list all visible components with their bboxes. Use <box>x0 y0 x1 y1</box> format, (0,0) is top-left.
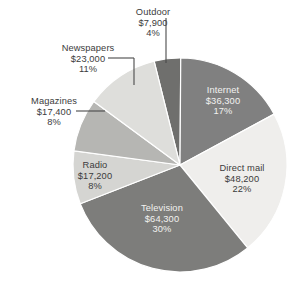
slice-label-outdoor-percent: 4% <box>107 28 199 39</box>
slice-label-internet-name: Internet <box>186 85 260 96</box>
slice-label-newspapers-value: $23,000 <box>40 54 136 65</box>
slice-label-outdoor-value: $7,900 <box>107 18 199 29</box>
slice-label-magazines: Magazines $17,400 8% <box>8 96 100 128</box>
slice-label-newspapers-percent: 11% <box>40 64 136 75</box>
slice-label-direct-mail-percent: 22% <box>200 184 284 195</box>
pie-chart-figure: Outdoor $7,900 4% Newspapers $23,000 11%… <box>0 0 303 290</box>
slice-label-television-percent: 30% <box>125 224 199 235</box>
slice-label-internet-value: $36,300 <box>186 96 260 107</box>
slice-label-television-value: $64,300 <box>125 214 199 225</box>
slice-label-direct-mail: Direct mail $48,200 22% <box>200 163 284 195</box>
slice-label-radio-name: Radio <box>60 160 130 171</box>
slice-label-magazines-percent: 8% <box>8 117 100 128</box>
slice-label-television-name: Television <box>125 203 199 214</box>
slice-label-direct-mail-name: Direct mail <box>200 163 284 174</box>
slice-label-radio-value: $17,200 <box>60 171 130 182</box>
slice-label-magazines-value: $17,400 <box>8 107 100 118</box>
slice-label-radio-percent: 8% <box>60 181 130 192</box>
slice-label-newspapers-name: Newspapers <box>40 43 136 54</box>
slice-label-newspapers: Newspapers $23,000 11% <box>40 43 136 75</box>
slice-label-outdoor-name: Outdoor <box>107 7 199 18</box>
slice-label-radio: Radio $17,200 8% <box>60 160 130 192</box>
slice-label-internet: Internet $36,300 17% <box>186 85 260 117</box>
slice-label-outdoor: Outdoor $7,900 4% <box>107 7 199 39</box>
slice-label-magazines-name: Magazines <box>8 96 100 107</box>
slice-label-internet-percent: 17% <box>186 106 260 117</box>
slice-label-direct-mail-value: $48,200 <box>200 174 284 185</box>
slice-label-television: Television $64,300 30% <box>125 203 199 235</box>
